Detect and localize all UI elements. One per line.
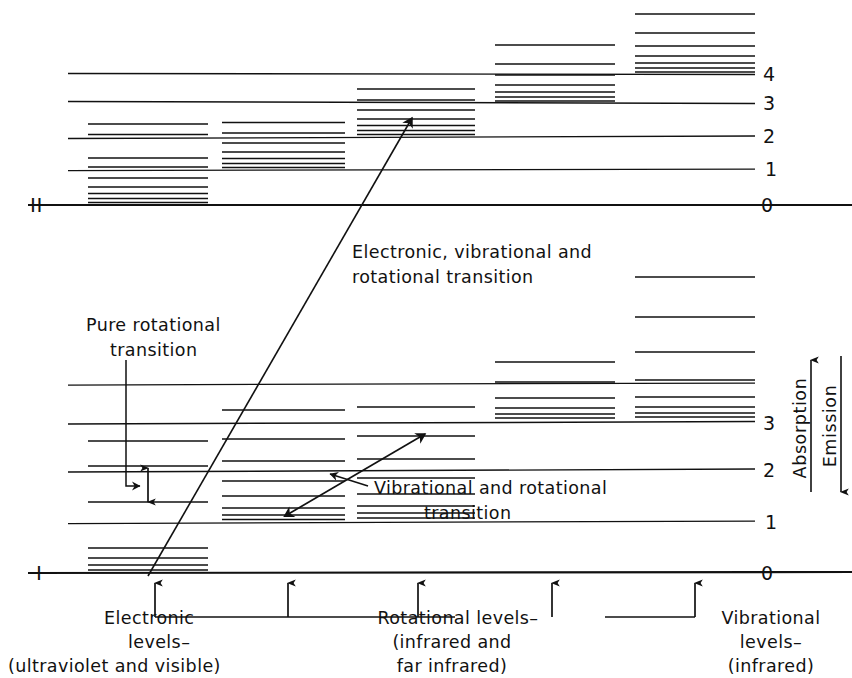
rot-ladder-upper-c4-v4 bbox=[495, 45, 615, 64]
caption-electronic-line1: Electronic bbox=[104, 608, 194, 628]
rot-ladder-upper-c1-v0 bbox=[88, 178, 208, 203]
vib-level-upper-4 bbox=[68, 74, 755, 75]
electronic-state-label-II: II bbox=[30, 193, 43, 217]
rot-ladder-upper-c3-v2 bbox=[357, 110, 475, 135]
vib-level-lower-0 bbox=[28, 572, 852, 573]
absorption-emission-axis: Absorption Emission bbox=[790, 356, 841, 492]
rot-ladder-lower-c4-v3 bbox=[495, 362, 615, 418]
vib-number-lower-0: 0 bbox=[761, 562, 773, 584]
annotation-pure-rotational-line2: transition bbox=[110, 340, 197, 360]
vib-number-lower-2: 2 bbox=[763, 459, 775, 481]
vib-number-lower-1: 1 bbox=[765, 511, 777, 533]
rot-ladder-lower-c2-v0 bbox=[222, 481, 345, 520]
rot-ladder-lower-c5-v3 bbox=[635, 277, 755, 417]
emission-label: Emission bbox=[820, 385, 840, 468]
caption-electronic-line2: levels– bbox=[128, 632, 190, 652]
caption-rotational-line1: Rotational levels– bbox=[377, 608, 538, 628]
rot-ladder-lower-c1-v0 bbox=[88, 548, 208, 570]
rot-ladder-lower-c2-v2 bbox=[222, 410, 345, 461]
vib-level-upper-2 bbox=[68, 136, 755, 139]
diagram-canvas: II 4 3 2 1 0 bbox=[0, 0, 852, 678]
vib-level-lower-2 bbox=[68, 469, 755, 472]
rot-ladder-upper-c5-v4 bbox=[635, 14, 755, 72]
caption-electronic-line3: (ultraviolet and visible) bbox=[8, 656, 221, 676]
electronic-state-II: II 4 3 2 1 0 bbox=[28, 14, 852, 217]
vibrational-rotational-leader-line bbox=[330, 474, 368, 486]
annotation-electronic-transition-line2: rotational transition bbox=[352, 267, 534, 287]
caption-vibrational-line2: levels– bbox=[740, 632, 802, 652]
rot-ladder-upper-c3-v3 bbox=[357, 89, 475, 100]
vib-level-upper-3 bbox=[68, 102, 755, 104]
absorption-label: Absorption bbox=[790, 378, 810, 479]
rotational-ladders-upper bbox=[88, 14, 755, 203]
caption-vibrational-line3: (infrared) bbox=[728, 656, 814, 676]
rot-ladder-lower-c1-v2 bbox=[88, 441, 208, 466]
rot-ladder-upper-c1-v1 bbox=[88, 158, 208, 167]
annotation-pure-rotational-line1: Pure rotational bbox=[86, 315, 221, 335]
caption-vibrational-line1: Vibrational bbox=[722, 608, 821, 628]
electronic-state-label-I: I bbox=[36, 561, 42, 585]
vib-level-lower-3 bbox=[68, 422, 755, 425]
vib-level-lower-1 bbox=[68, 521, 755, 524]
vibrational-baselines-upper bbox=[28, 74, 852, 206]
vib-number-upper-2: 2 bbox=[763, 125, 775, 147]
vib-number-upper-3: 3 bbox=[763, 92, 775, 114]
annotation-vibrational-rotational-line1: Vibrational and rotational bbox=[374, 478, 607, 498]
vib-number-upper-0: 0 bbox=[761, 194, 773, 216]
vib-number-upper-4: 4 bbox=[763, 63, 775, 85]
vibrational-rotational-transition-arrow bbox=[285, 434, 425, 516]
vib-level-upper-1 bbox=[68, 169, 755, 171]
rot-ladder-upper-c2-v1 bbox=[222, 143, 345, 168]
annotation-vibrational-rotational-line2: transition bbox=[424, 503, 511, 523]
energy-level-diagram: II 4 3 2 1 0 bbox=[0, 0, 852, 678]
annotation-electronic-transition-line1: Electronic, vibrational and bbox=[352, 242, 592, 262]
caption-rotational-line3: far infrared) bbox=[397, 656, 507, 676]
rot-ladder-upper-c1-v2 bbox=[88, 124, 208, 135]
rot-ladder-lower-c3-v2 bbox=[357, 407, 475, 459]
vib-number-lower-3: 3 bbox=[763, 412, 775, 434]
rot-ladder-upper-c2-v2 bbox=[222, 123, 345, 134]
rot-ladder-upper-c4-v3 bbox=[495, 75, 615, 101]
vib-number-upper-1: 1 bbox=[765, 158, 777, 180]
caption-rotational-line2: (infrared and bbox=[392, 632, 511, 652]
vib-level-lower-4 bbox=[68, 383, 755, 385]
